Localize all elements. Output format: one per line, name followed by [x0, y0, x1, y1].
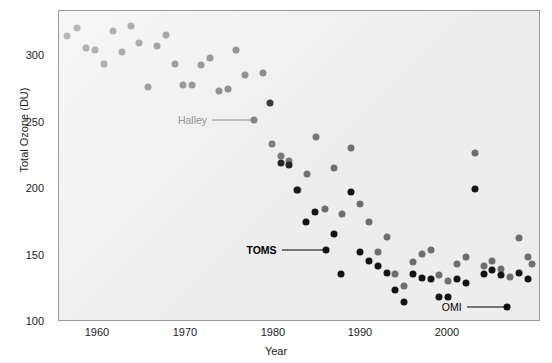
x-tick-label-1970: 1970: [155, 327, 215, 338]
data-point: [454, 276, 461, 283]
data-point: [462, 280, 469, 287]
data-point: [489, 267, 496, 274]
data-point: [206, 54, 213, 61]
data-point: [233, 46, 240, 53]
annotation-toms-leader: [282, 250, 326, 251]
data-point: [409, 271, 416, 278]
data-point: [180, 82, 187, 89]
data-point: [418, 251, 425, 258]
data-point: [109, 27, 116, 34]
data-point: [365, 219, 372, 226]
data-point: [127, 22, 134, 29]
data-point: [357, 200, 364, 207]
data-point: [471, 150, 478, 157]
annotation-omi-leader: [467, 307, 507, 308]
data-point: [383, 233, 390, 240]
data-point: [409, 259, 416, 266]
data-point: [515, 235, 522, 242]
data-point: [427, 247, 434, 254]
data-point: [357, 248, 364, 255]
data-point: [339, 211, 346, 218]
data-point: [427, 276, 434, 283]
data-point: [401, 299, 408, 306]
ozone-scatter-figure: 300 250 200 150 100 Total Ozone (DU) 196…: [0, 0, 552, 363]
data-point: [445, 293, 452, 300]
data-point: [101, 61, 108, 68]
x-tick-2000: [0, 25, 1, 30]
data-point: [268, 140, 275, 147]
data-point: [507, 273, 514, 280]
data-point: [162, 31, 169, 38]
data-point: [92, 46, 99, 53]
data-point: [348, 188, 355, 195]
annotation-halley-leader: [212, 119, 254, 120]
y-tick-label-150: 150: [4, 250, 44, 261]
data-point: [436, 293, 443, 300]
x-tick-label-1990: 1990: [330, 327, 390, 338]
x-tick-label-1960: 1960: [67, 327, 127, 338]
data-point: [63, 33, 70, 40]
data-point: [454, 260, 461, 267]
data-point: [259, 70, 266, 77]
y-tick-label-100: 100: [4, 316, 44, 327]
data-point: [401, 283, 408, 290]
data-point: [242, 71, 249, 78]
data-point: [330, 231, 337, 238]
annotation-omi-label: OMI: [442, 302, 462, 313]
data-point: [392, 287, 399, 294]
data-point: [304, 171, 311, 178]
data-point: [198, 62, 205, 69]
annotation-halley-label: Halley: [178, 115, 207, 126]
data-point: [462, 253, 469, 260]
data-point: [294, 187, 301, 194]
data-point: [348, 144, 355, 151]
data-point: [365, 257, 372, 264]
data-point: [321, 206, 328, 213]
plot-area: Halley TOMS OMI: [58, 10, 540, 321]
data-point: [374, 248, 381, 255]
data-point: [471, 186, 478, 193]
data-point: [374, 263, 381, 270]
data-point: [153, 42, 160, 49]
data-point: [498, 272, 505, 279]
data-point: [189, 82, 196, 89]
x-axis-title: Year: [0, 345, 552, 357]
data-point: [118, 49, 125, 56]
data-point: [392, 271, 399, 278]
data-point: [277, 159, 284, 166]
y-axis-title: Total Ozone (DU): [18, 60, 30, 200]
data-point: [489, 257, 496, 264]
annotation-toms-label: TOMS: [246, 245, 276, 256]
data-point: [383, 269, 390, 276]
data-point: [480, 263, 487, 270]
data-point: [145, 83, 152, 90]
data-point: [215, 87, 222, 94]
data-point: [524, 276, 531, 283]
data-point: [330, 164, 337, 171]
data-point: [312, 134, 319, 141]
data-point: [224, 86, 231, 93]
data-point: [338, 271, 345, 278]
x-tick-label-1980: 1980: [243, 327, 303, 338]
data-point: [418, 275, 425, 282]
data-point: [436, 272, 443, 279]
data-point: [529, 260, 536, 267]
data-point: [136, 39, 143, 46]
data-point: [171, 61, 178, 68]
data-point: [303, 219, 310, 226]
data-point: [73, 25, 80, 32]
data-point: [480, 271, 487, 278]
data-point: [266, 99, 273, 106]
data-point: [312, 208, 319, 215]
data-point: [285, 162, 292, 169]
data-point: [515, 269, 522, 276]
x-tick-label-2000: 2000: [417, 327, 477, 338]
data-point: [83, 45, 90, 52]
data-point: [445, 277, 452, 284]
